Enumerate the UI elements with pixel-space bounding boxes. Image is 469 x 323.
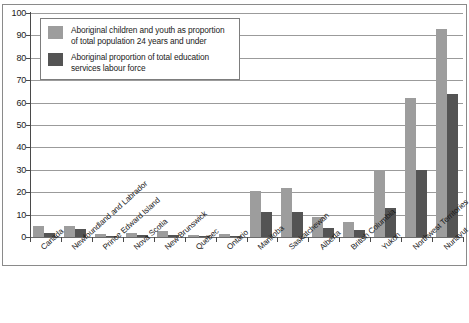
chart-legend: Aboriginal children and youth as proport… <box>40 18 240 80</box>
legend-label-line1: Aboriginal children and youth as proport… <box>71 25 224 35</box>
x-axis-label: Ontario <box>225 228 250 252</box>
legend-label-line2: of total population 24 years and under <box>71 36 207 46</box>
legend-label-line2: services labour force <box>71 63 145 73</box>
legend-label-line1: Aboriginal proportion of total education <box>71 52 209 62</box>
x-axis-label: Manitoba <box>256 224 286 252</box>
x-axis-label: Nunavut <box>442 226 469 252</box>
x-axis-label: Prince Edward Island <box>101 196 162 252</box>
legend-swatch-light <box>48 26 63 39</box>
bar-chart-figure: 0102030405060708090100 CanadaNewfoundlan… <box>0 0 469 323</box>
x-axis-label: Yukon <box>380 230 402 251</box>
x-axis-label: Quebec <box>194 227 220 252</box>
legend-entry-labour-force: Aboriginal proportion of total education… <box>48 52 232 73</box>
legend-label-children-youth: Aboriginal children and youth as proport… <box>71 25 224 46</box>
x-axis-label: Alberta <box>318 229 342 252</box>
legend-entry-children-youth: Aboriginal children and youth as proport… <box>48 25 232 46</box>
x-axis-label: Canada <box>39 227 65 252</box>
legend-label-labour-force: Aboriginal proportion of total education… <box>71 52 209 73</box>
legend-swatch-dark <box>48 53 63 66</box>
x-axis-label: Northwest Territories <box>411 197 469 251</box>
